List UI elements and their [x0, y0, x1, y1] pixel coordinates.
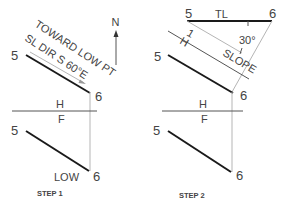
descriptive-geometry-diagram: N TOWARD LOW PT SL DIR S 60°E 5 6 H F 5 …: [0, 0, 290, 209]
fold-label-h: H: [199, 98, 207, 110]
fold-label-f: F: [58, 113, 65, 125]
top-point-6: 6: [95, 89, 102, 104]
front-point-6: 6: [236, 168, 243, 183]
front-view-line-5-6: [26, 131, 89, 171]
top-view-line-5-6: [168, 55, 233, 93]
low-label: LOW: [54, 171, 80, 183]
tl-point-6: 6: [269, 6, 276, 21]
tl-label: TL: [215, 8, 228, 20]
tl-point-5: 5: [185, 6, 192, 21]
north-arrow-icon: [114, 30, 119, 37]
angle-label: 30°: [239, 34, 256, 46]
top-point-5: 5: [154, 49, 161, 64]
step-2: 5 TL 6 30° 1 H SLOPE 5 6 H F 5 6 STEP 2: [153, 6, 276, 200]
top-point-6: 6: [240, 88, 247, 103]
front-point-5: 5: [153, 123, 160, 138]
slope-label: SLOPE: [221, 46, 259, 75]
step-1: N TOWARD LOW PT SL DIR S 60°E 5 6 H F 5 …: [11, 16, 120, 198]
step-1-caption: STEP 1: [37, 189, 63, 198]
front-point-6: 6: [93, 169, 100, 184]
top-point-5: 5: [11, 48, 18, 63]
step-2-caption: STEP 2: [179, 191, 205, 200]
north-label: N: [112, 16, 120, 28]
front-point-5: 5: [11, 123, 18, 138]
fold-label-h-aux: H: [178, 34, 191, 48]
fold-label-h: H: [56, 98, 64, 110]
fold-label-f: F: [201, 113, 208, 125]
projection-line-5: [187, 21, 242, 53]
front-view-line-5-6: [168, 131, 231, 172]
